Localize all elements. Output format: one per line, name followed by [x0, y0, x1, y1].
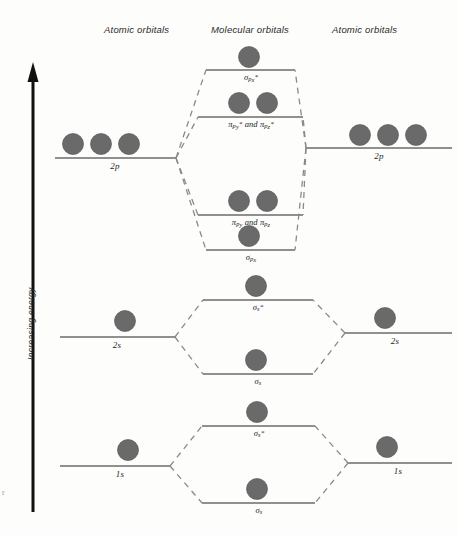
mo-label-sigma-s-star-1s: σs*	[254, 428, 265, 438]
orbital-circle	[247, 479, 268, 500]
orbital-circle	[118, 440, 139, 461]
level-label-2p-left: 2p	[110, 161, 119, 171]
orbital-circle	[257, 191, 278, 212]
orbital-circle	[375, 308, 396, 329]
level-label-2s-left: 2s	[113, 340, 121, 350]
header-atomic-orbitals-left: Atomic orbitals	[104, 24, 169, 35]
orbital-circle	[63, 134, 84, 155]
orbital-circle	[119, 134, 140, 155]
orbital-circle	[378, 125, 399, 146]
mo-diagram-canvas	[0, 0, 458, 535]
mo-label-sigma-px: σpx	[246, 252, 257, 263]
level-label-1s-right: 1s	[394, 466, 402, 476]
orbital-circle	[247, 402, 268, 423]
orbital-circle	[377, 437, 398, 458]
orbital-electron-circles	[63, 47, 427, 500]
orbital-circle	[239, 226, 260, 247]
level-label-2p-right: 2p	[374, 151, 383, 161]
orbital-circle	[91, 134, 112, 155]
level-label-2s-right: 2s	[391, 336, 399, 346]
orbital-circle	[350, 125, 371, 146]
mo-label-sigma-s-star-2s: σs*	[253, 302, 264, 312]
orbital-circle	[229, 93, 250, 114]
orbital-circle	[239, 47, 260, 68]
header-atomic-orbitals-right: Atomic orbitals	[332, 24, 397, 35]
orbital-circle	[246, 350, 267, 371]
mo-diagram: Atomic orbitals Molecular orbitals Atomi…	[0, 0, 458, 535]
mo-label-sigma-px-star: σpx*	[244, 72, 258, 83]
mo-label-pi-py-pz-star: πpy* and πpz*	[228, 119, 274, 130]
orbital-circle	[406, 125, 427, 146]
mo-label-sigma-s-2s: σs	[255, 376, 262, 386]
orbital-circle	[246, 276, 267, 297]
axis-label-increasing-energy: Increasing energy	[26, 287, 36, 360]
orbital-circle	[229, 191, 250, 212]
mo-label-sigma-s-1s: σs	[256, 505, 263, 515]
level-label-1s-left: 1s	[116, 469, 124, 479]
mo-label-pi-py-pz: πpy and πpz	[232, 217, 270, 228]
header-molecular-orbitals: Molecular orbitals	[211, 24, 289, 35]
scan-edge-artifact: r	[2, 488, 5, 497]
orbital-circle	[257, 93, 278, 114]
orbital-circle	[115, 311, 136, 332]
